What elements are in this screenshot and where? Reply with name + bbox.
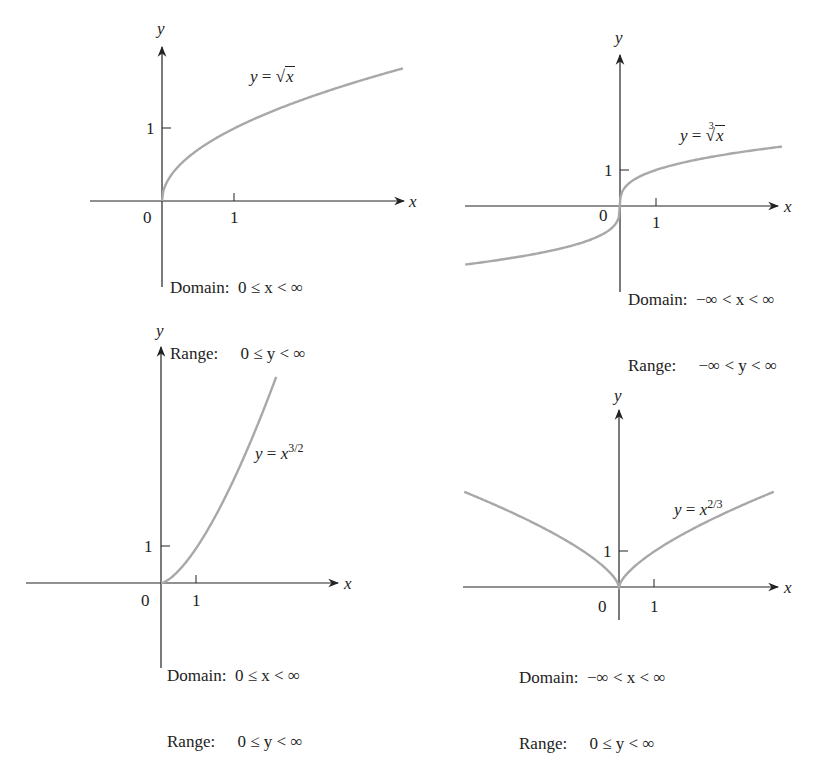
range-value: 0 ≤ y < ∞ <box>241 344 306 363</box>
eq-exponent: 3/2 <box>288 441 303 455</box>
equation-sqrt: y = √x <box>250 67 295 87</box>
y-tick-label: 1 <box>604 161 613 180</box>
eq-op: = <box>688 126 706 145</box>
eq-lhs: y <box>680 126 688 145</box>
domain-label: Domain: <box>519 668 579 687</box>
radical: √x <box>276 67 295 86</box>
eq-op: = <box>682 500 700 519</box>
origin-label: 0 <box>598 597 607 616</box>
y-tick-label: 1 <box>603 542 612 561</box>
y-tick-label: 1 <box>144 537 153 556</box>
domain-row: Domain: −∞ < x < ∞ <box>519 667 666 689</box>
panel-x-two-thirds: x y 0 1 1 <box>463 386 792 620</box>
y-axis-label: y <box>154 321 164 340</box>
x-axis-label: x <box>408 192 417 211</box>
x-tick-label: 1 <box>230 208 239 227</box>
equation-x-two-thirds: y = x2/3 <box>674 497 723 520</box>
caption-sqrt: Domain: 0 ≤ x < ∞ Range: 0 ≤ y < ∞ <box>170 233 306 387</box>
range-row: Range: 0 ≤ y < ∞ <box>170 343 306 365</box>
range-label: Range: <box>167 731 229 753</box>
range-value: 0 ≤ y < ∞ <box>238 732 303 751</box>
domain-value: 0 ≤ x < ∞ <box>235 666 300 685</box>
domain-row: Domain: −∞ < x < ∞ <box>628 289 777 311</box>
domain-label: Domain: <box>170 278 230 297</box>
radical-index: 3 <box>709 120 714 131</box>
origin-label: 0 <box>141 591 150 610</box>
radical: 3√x <box>706 126 725 145</box>
eq-radicand: x <box>716 126 724 145</box>
eq-lhs: y <box>674 500 682 519</box>
x-tick-label: 1 <box>652 213 661 232</box>
eq-lhs: y <box>255 444 263 463</box>
range-label: Range: <box>170 343 232 365</box>
x-tick-label: 1 <box>192 591 201 610</box>
y-axis-label: y <box>612 386 622 405</box>
eq-radicand: x <box>286 67 294 86</box>
range-label: Range: <box>519 733 581 755</box>
eq-op: = <box>258 67 276 86</box>
y-axis-label: y <box>155 19 165 38</box>
range-value: −∞ < y < ∞ <box>699 356 778 375</box>
domain-label: Domain: <box>628 290 688 309</box>
eq-exponent: 2/3 <box>707 497 722 511</box>
y-axis-label: y <box>613 28 623 47</box>
equation-cbrt: y = 3√x <box>680 126 725 146</box>
curve-x-three-halves <box>161 377 276 583</box>
y-tick-label: 1 <box>146 119 155 138</box>
domain-row: Domain: 0 ≤ x < ∞ <box>170 277 306 299</box>
range-row: Range: −∞ < y < ∞ <box>628 355 777 377</box>
domain-value: 0 ≤ x < ∞ <box>238 278 303 297</box>
eq-lhs: y <box>250 67 258 86</box>
range-label: Range: <box>628 355 690 377</box>
origin-label: 0 <box>143 208 152 227</box>
x-axis-label: x <box>783 578 792 597</box>
domain-value: −∞ < x < ∞ <box>587 668 666 687</box>
curve-sqrt <box>162 68 403 201</box>
range-row: Range: 0 ≤ y < ∞ <box>167 731 303 753</box>
caption-cbrt: Domain: −∞ < x < ∞ Range: −∞ < y < ∞ <box>628 245 777 399</box>
equation-x-three-halves: y = x3/2 <box>255 441 304 464</box>
domain-row: Domain: 0 ≤ x < ∞ <box>167 665 303 687</box>
domain-label: Domain: <box>167 666 227 685</box>
x-axis-label: x <box>783 197 792 216</box>
x-axis-label: x <box>343 574 352 593</box>
range-row: Range: 0 ≤ y < ∞ <box>519 733 666 755</box>
caption-x-three-halves: Domain: 0 ≤ x < ∞ Range: 0 ≤ y < ∞ <box>167 621 303 757</box>
caption-x-two-thirds: Domain: −∞ < x < ∞ Range: 0 ≤ y < ∞ <box>519 623 666 757</box>
domain-value: −∞ < x < ∞ <box>696 290 775 309</box>
eq-op: = <box>263 444 281 463</box>
range-value: 0 ≤ y < ∞ <box>590 734 655 753</box>
origin-label: 0 <box>599 206 608 225</box>
x-tick-label: 1 <box>650 597 659 616</box>
